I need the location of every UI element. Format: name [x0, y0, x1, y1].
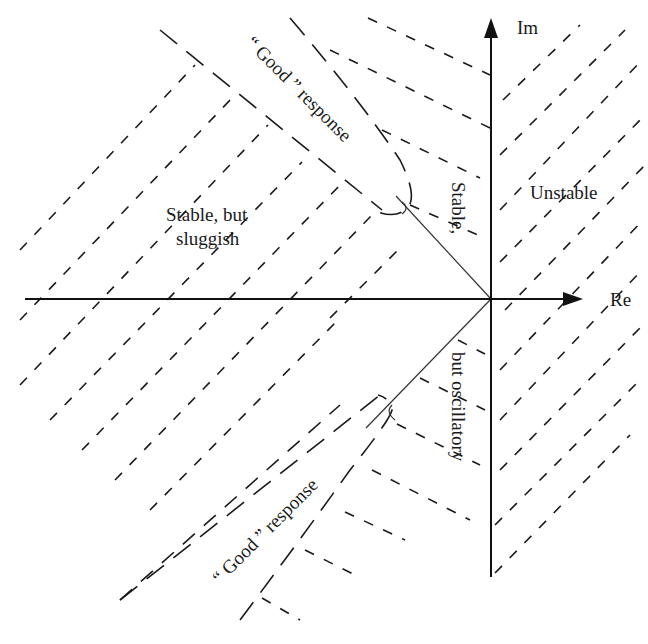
- sluggish-label-line1: Stable, but: [166, 204, 248, 225]
- damping-line-lower: [366, 299, 491, 428]
- imaginary-axis-arrow-icon: [484, 18, 498, 38]
- s-plane-diagram: Im Re Unstable Stable, but sluggish Stab…: [0, 0, 648, 644]
- oscillatory-label-lower: but oscillatory: [448, 352, 469, 462]
- good-response-boundary-upper: [160, 18, 411, 215]
- good-response-boundary-lower: [120, 395, 395, 620]
- sluggish-label-line2: sluggish: [176, 228, 240, 249]
- unstable-label: Unstable: [530, 182, 598, 203]
- imaginary-axis: [484, 18, 498, 577]
- oscillatory-label-upper: Stable,: [448, 182, 469, 234]
- sluggish-region-hatch: [20, 65, 400, 600]
- good-response-label-lower: “ Good ” response: [208, 474, 322, 588]
- damping-line-upper: [396, 196, 491, 299]
- imag-axis-label: Im: [517, 17, 538, 38]
- real-axis-label: Re: [610, 289, 631, 310]
- real-axis: [25, 292, 583, 306]
- good-response-label-upper: “ Good ” response: [242, 32, 356, 146]
